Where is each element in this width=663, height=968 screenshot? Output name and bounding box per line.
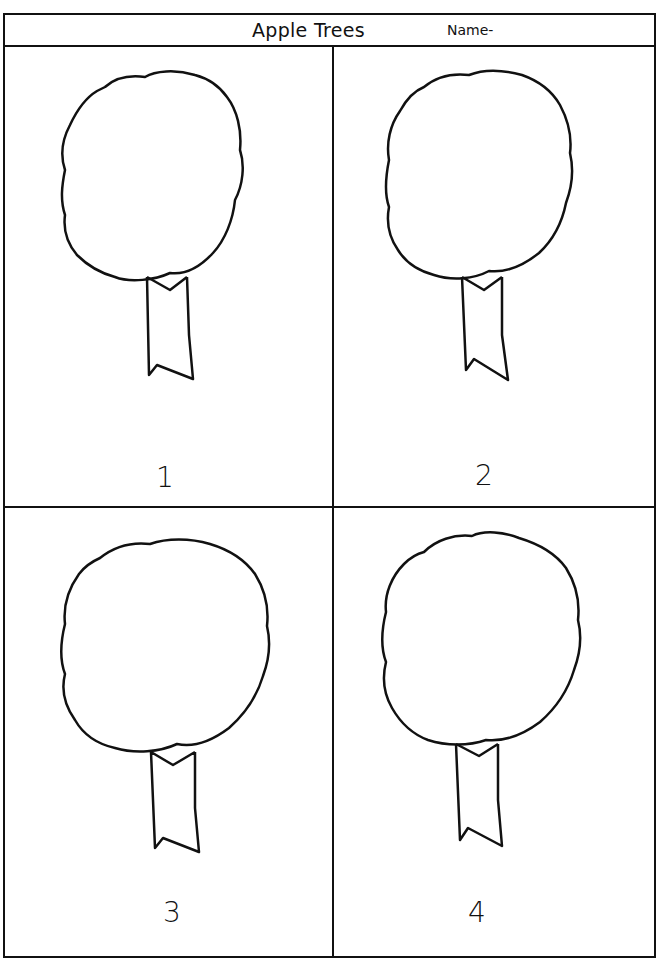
worksheet: Apple Trees Name- 1 2 [3,13,656,958]
panel-2: 2 [334,45,656,506]
panel-grid: 1 2 3 4 [5,45,654,956]
panel-3: 3 [5,508,332,958]
panel-1: 1 [5,45,332,506]
panel-number: 2 [475,459,493,492]
worksheet-title: Apple Trees [252,19,365,41]
panel-4: 4 [334,508,656,958]
panel-number: 3 [163,896,181,929]
panel-number: 4 [468,896,486,929]
panel-number: 1 [156,461,174,494]
tree-outline-icon [334,45,656,506]
tree-outline-icon [334,508,656,958]
tree-outline-icon [5,45,332,506]
name-field-label: Name- [447,22,493,38]
worksheet-header: Apple Trees Name- [5,15,654,47]
tree-outline-icon [5,508,332,958]
